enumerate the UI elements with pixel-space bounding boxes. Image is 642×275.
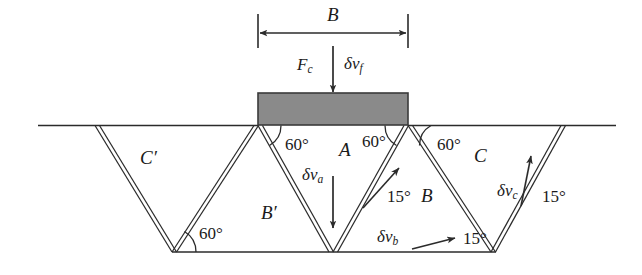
angle-label-60-center: 60° — [362, 133, 386, 150]
region-label-b-prime: B′ — [261, 203, 277, 222]
velocity-label-b: δvb — [377, 228, 398, 248]
figure-canvas: B Fc δvf 60° 60° 60° 60° 15° 15° 15° C′ … — [0, 0, 642, 275]
region-label-a: A — [339, 140, 351, 159]
angle-label-15-right: 15° — [542, 188, 566, 205]
footing-block — [258, 93, 408, 125]
angle-label-60-right: 60° — [437, 136, 461, 153]
velocity-label-c: δvc — [497, 182, 518, 202]
diagram-svg — [0, 0, 642, 275]
dimension-label-b: B — [327, 5, 339, 24]
velocity-label-a: δva — [302, 166, 323, 186]
slip-surfaces — [95, 126, 566, 253]
force-label: Fc — [297, 56, 313, 76]
angle-label-15-center: 15° — [387, 188, 411, 205]
angle-label-60-bottom-left: 60° — [199, 225, 223, 242]
angle-label-60-left: 60° — [285, 136, 309, 153]
angle-label-15-bottom: 15° — [463, 230, 487, 247]
region-label-c-prime: C′ — [140, 148, 157, 167]
region-label-c: C — [474, 146, 487, 165]
velocity-label-f: δvf — [344, 55, 363, 75]
region-label-b: B — [421, 186, 433, 205]
